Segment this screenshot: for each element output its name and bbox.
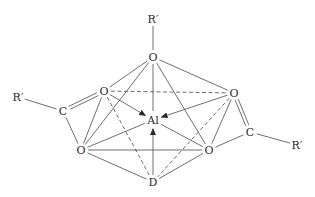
bond-c_right-o_lr	[215, 135, 243, 147]
atom-r-right: R′	[292, 139, 303, 152]
bonds-layer	[25, 26, 291, 179]
atom-o-upper-left: O	[99, 85, 108, 98]
atom-c-left: C	[59, 105, 67, 118]
atom-r-top: R′	[148, 13, 159, 26]
atom-o-top: O	[148, 51, 157, 64]
atom-o-lower-right: O	[204, 144, 213, 157]
bond-o_lr-al	[161, 124, 203, 146]
bond-o_top-o_ur	[159, 60, 227, 90]
bond-c_left-o_ll	[66, 117, 78, 143]
bond-o_ul-o_ll	[84, 98, 102, 144]
bond-o_ur-o_lr	[212, 99, 231, 143]
bond-o_top-o_lr	[157, 63, 206, 144]
atom-o-lower-left: O	[76, 144, 85, 157]
bond-o_ur-al-arrow	[162, 95, 228, 117]
bond-o_top-o_ul	[110, 61, 147, 87]
atom-r-left: R′	[13, 91, 24, 104]
atom-o-upper-right: O	[229, 87, 238, 100]
bond-o_ul-c_left	[70, 96, 98, 110]
atom-c-right: C	[246, 126, 254, 139]
bond-c_right-r_right	[257, 134, 291, 143]
atom-donor-d: D	[149, 176, 158, 189]
bond-o_ll-al	[87, 123, 144, 147]
atoms-layer: R′ O O O R′ C Al C R′ O O D	[13, 13, 303, 189]
bond-o_top-o_ll	[85, 63, 148, 145]
bond-o_ll-d	[87, 153, 146, 179]
bond-c_left-r_left	[25, 99, 57, 109]
bond-o_ul-al-arrow	[110, 95, 145, 116]
chemical-structure-diagram: R′ O O O R′ C Al C R′ O O D	[0, 0, 315, 197]
bond-o_ul-o_ur	[111, 91, 227, 93]
atom-aluminium: Al	[146, 114, 159, 127]
bond-o_ur-d	[158, 98, 230, 177]
bond-o_lr-d	[159, 153, 203, 178]
bond-o_ul-c_left	[69, 93, 97, 107]
